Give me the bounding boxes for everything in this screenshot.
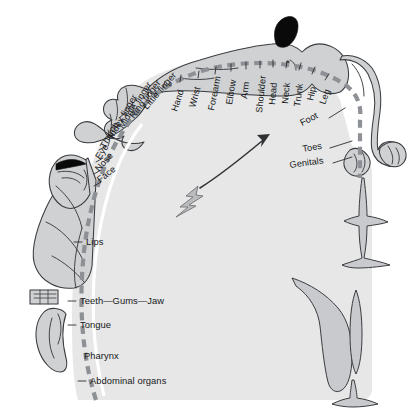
label-tongue: Tongue: [80, 319, 111, 330]
teeth-inset: [30, 290, 58, 304]
arc-label-head: Head: [267, 82, 279, 105]
label-abdominal-organs: Abdominal organs: [90, 375, 167, 386]
homunculus-lower-hand: [344, 148, 370, 176]
label-lips: Lips: [86, 236, 104, 247]
label-pharynx: Pharynx: [84, 350, 119, 361]
tongue-shape: [36, 308, 67, 372]
homunculus-figure: Sensory homunculus along the postcentral…: [0, 0, 415, 418]
arc-label-neck: Neck: [280, 82, 292, 104]
homunculus-diagram: Sensory homunculus along the postcentral…: [0, 0, 415, 418]
arc-label-arm: Arm: [239, 81, 251, 99]
label-teeth-gums-jaw: Teeth—Gums—Jaw: [80, 295, 164, 306]
